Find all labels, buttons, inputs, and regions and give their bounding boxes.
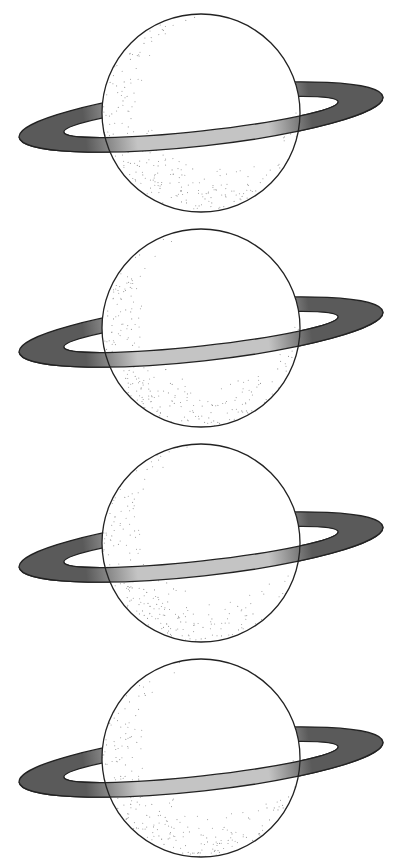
ringed-planet-2 [0, 227, 401, 442]
planet-sphere-icon [102, 14, 300, 212]
ringed-planet-1 [0, 12, 401, 227]
planet-sphere-icon [102, 229, 300, 427]
planet-sphere-icon [102, 444, 300, 642]
planet-sphere-icon [102, 659, 300, 857]
ringed-planet-3 [0, 442, 401, 657]
ringed-planet-4 [0, 657, 401, 862]
